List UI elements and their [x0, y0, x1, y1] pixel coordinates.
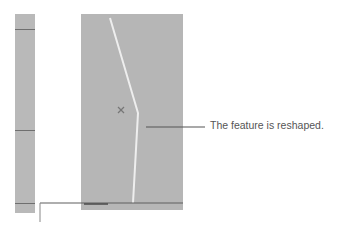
callout-label: The feature is reshaped.	[210, 119, 324, 131]
feature-drawing	[0, 0, 346, 232]
x-marker-icon	[118, 107, 124, 113]
reshaped-feature-line[interactable]	[110, 18, 138, 203]
